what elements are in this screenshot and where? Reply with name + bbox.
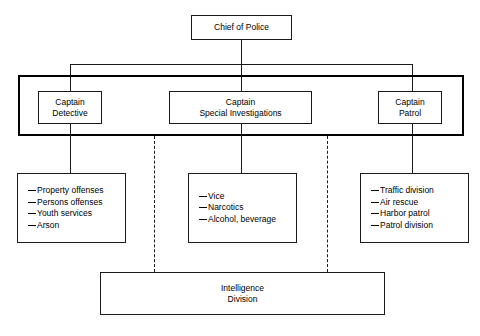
list-item: Patrol division (371, 220, 468, 232)
list-item: Air rescue (371, 197, 468, 209)
connector-chief-stem (241, 40, 242, 64)
list-item-label: Property offenses (37, 185, 103, 195)
node-intelligence-division[interactable]: Intelligence Division (100, 272, 385, 315)
captain-special-line2: Special Investigations (199, 108, 281, 119)
dash-icon (371, 225, 379, 226)
list-item-label: Patrol division (380, 220, 433, 230)
node-captain-patrol[interactable]: Captain Patrol (378, 91, 442, 124)
dash-icon (28, 190, 36, 191)
list-item: Alcohol, beverage (199, 214, 296, 226)
list-item: Narcotics (199, 202, 296, 214)
list-detective-units[interactable]: Property offenses Persons offenses Youth… (17, 173, 126, 243)
captain-special-line1: Captain (226, 97, 255, 108)
patrol-units-list: Traffic division Air rescue Harbor patro… (361, 185, 468, 231)
list-item-label: Youth services (37, 208, 92, 218)
dash-icon (28, 213, 36, 214)
list-item: Property offenses (28, 185, 125, 197)
dash-icon (371, 190, 379, 191)
list-item-label: Alcohol, beverage (208, 214, 276, 224)
list-item: Persons offenses (28, 197, 125, 209)
dash-icon (199, 219, 207, 220)
node-captain-special-investigations[interactable]: Captain Special Investigations (169, 91, 312, 124)
captain-detective-line2: Detective (52, 108, 87, 119)
chief-label: Chief of Police (214, 22, 269, 33)
list-item: Harbor patrol (371, 208, 468, 220)
list-item-label: Air rescue (380, 197, 418, 207)
list-item-label: Arson (37, 220, 59, 230)
dash-icon (199, 196, 207, 197)
connector-dashed-right-intelligence (327, 136, 328, 272)
list-patrol-units[interactable]: Traffic division Air rescue Harbor patro… (360, 173, 469, 243)
captain-detective-line1: Captain (55, 97, 84, 108)
list-item-label: Traffic division (380, 185, 434, 195)
dash-icon (28, 202, 36, 203)
list-item-label: Persons offenses (37, 197, 103, 207)
intelligence-line1: Intelligence (221, 283, 264, 294)
list-item: Youth services (28, 208, 125, 220)
dash-icon (371, 202, 379, 203)
detective-units-list: Property offenses Persons offenses Youth… (18, 185, 125, 231)
list-item: Arson (28, 220, 125, 232)
captain-patrol-line1: Captain (395, 97, 424, 108)
dash-icon (199, 207, 207, 208)
special-investigations-units-list: Vice Narcotics Alcohol, beverage (189, 191, 296, 226)
list-item-label: Harbor patrol (380, 208, 430, 218)
list-special-investigations-units[interactable]: Vice Narcotics Alcohol, beverage (188, 173, 297, 243)
captain-patrol-line2: Patrol (399, 108, 421, 119)
dash-icon (28, 225, 36, 226)
intelligence-line2: Division (228, 294, 258, 305)
list-item: Traffic division (371, 185, 468, 197)
node-captain-detective[interactable]: Captain Detective (38, 91, 102, 124)
org-chart-diagram: Chief of Police Captain Detective Captai… (0, 0, 480, 336)
connector-dashed-left-intelligence (154, 136, 155, 272)
list-item-label: Narcotics (208, 202, 243, 212)
list-item: Vice (199, 191, 296, 203)
node-chief-of-police[interactable]: Chief of Police (191, 15, 292, 40)
dash-icon (371, 213, 379, 214)
list-item-label: Vice (208, 191, 224, 201)
